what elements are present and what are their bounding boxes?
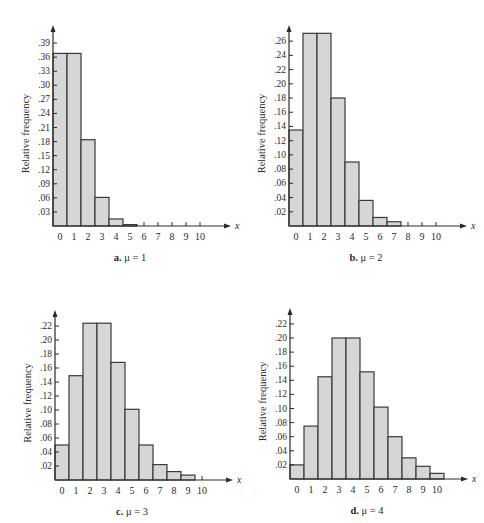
y-tick-label: .22 [274,65,286,75]
chart-panel-c: x.02.04.06.08.10.12.14.16.18.20.22012345… [22,310,242,517]
y-tick-label: .02 [275,460,287,470]
y-tick-label: .08 [274,164,286,174]
histogram-bar [304,426,318,479]
y-tick-label: .14 [274,121,286,131]
y-tick-label: .18 [274,93,286,103]
x-tick-label: 2 [88,485,93,496]
histogram-bar [402,458,416,479]
histogram-bar [331,98,345,226]
histogram-bar [139,445,153,480]
x-tick-label: 9 [186,485,191,496]
y-tick-label: .22 [275,319,287,329]
x-tick-label: 8 [170,231,175,242]
histogram-bar [318,377,332,479]
x-tick-label: 10 [195,231,205,242]
y-tick-label: .12 [38,165,50,175]
panel-caption: c. μ = 3 [116,506,148,517]
histogram-bar [373,217,387,226]
y-tick-label: .20 [274,79,286,89]
x-tick-label: 2 [323,484,328,495]
x-tick-label: 7 [158,485,163,496]
x-tick-label: 4 [351,484,356,495]
x-tick-label: 9 [184,231,189,242]
histogram-bar [83,323,97,480]
y-tick-label: .18 [40,349,52,359]
y-tick-label: .27 [38,94,50,104]
x-tick-label: 6 [144,485,149,496]
x-tick-label: 8 [407,484,412,495]
y-tick-label: .24 [38,108,50,118]
panel-caption: d. μ = 4 [350,505,384,516]
x-tick-label: 1 [308,231,313,242]
histogram-bar [125,409,139,480]
histogram-bar [388,437,402,479]
y-tick-label: .36 [38,52,50,62]
y-tick-label: .06 [275,432,287,442]
y-tick-label: .21 [38,123,50,133]
y-tick-label: .04 [40,447,52,457]
histogram-bar [317,33,331,226]
histogram-bar [153,465,167,480]
y-tick-label: .20 [40,335,52,345]
x-tick-label: 0 [60,485,65,496]
histogram-bar [69,376,83,480]
histogram-bar [303,33,317,226]
y-tick-label: .16 [40,363,52,373]
x-tick-label: 8 [172,485,177,496]
y-axis-label: Relative frequency [257,361,268,441]
y-tick-label: .14 [40,377,52,387]
histogram-bar [181,475,195,480]
histogram-bar [332,338,346,479]
x-axis-label: x [236,474,242,485]
y-tick-label: .16 [275,361,287,371]
y-tick-label: .03 [38,207,50,217]
chart-panel-a: x.03.06.09.12.15.18.21.24.27.30.33.36.39… [20,25,240,263]
histogram-bar [55,445,69,480]
histogram-bar [359,200,373,226]
y-tick-label: .12 [274,136,286,146]
y-tick-label: .20 [275,333,287,343]
x-tick-label: 7 [156,231,161,242]
histogram-bar [345,162,359,226]
x-tick-label: 0 [295,484,300,495]
histogram-bar [97,323,111,480]
x-tick-label: 2 [86,231,91,242]
histogram-bar [387,222,401,226]
histogram-bar [167,472,181,480]
chart-panel-b: x.02.04.06.08.10.12.14.16.18.20.22.24.26… [256,25,476,263]
y-tick-label: .06 [274,178,286,188]
y-tick-label: .18 [275,347,287,357]
x-tick-label: 1 [72,231,77,242]
x-tick-label: 5 [364,231,369,242]
histogram-bar [111,362,125,480]
y-tick-label: .24 [274,50,286,60]
y-axis-arrow-icon [287,25,292,32]
y-tick-label: .12 [40,391,52,401]
x-tick-label: 10 [432,484,442,495]
x-tick-label: 4 [350,231,355,242]
x-tick-label: 6 [142,231,147,242]
histogram-bar [81,140,95,226]
y-tick-label: .10 [40,405,52,415]
y-axis-label: Relative frequency [256,93,267,173]
y-tick-label: .26 [274,36,286,46]
x-tick-label: 3 [336,231,341,242]
x-axis-arrow-icon [461,477,468,482]
histogram-bar [430,473,444,479]
panel-caption: b. μ = 2 [349,252,382,263]
x-tick-label: 10 [431,231,441,242]
y-tick-label: .10 [275,404,287,414]
y-tick-label: .02 [274,207,286,217]
y-tick-label: .06 [40,433,52,443]
x-tick-label: 0 [294,231,299,242]
x-tick-label: 8 [406,231,411,242]
x-axis-arrow-icon [226,478,233,483]
histogram-bar [53,53,67,226]
histogram-bar [67,53,81,226]
histogram-bar [360,372,374,479]
y-tick-label: .08 [40,419,52,429]
x-tick-label: 7 [393,484,398,495]
x-tick-label: 5 [365,484,370,495]
y-tick-label: .16 [274,107,286,117]
x-tick-label: 5 [130,485,135,496]
